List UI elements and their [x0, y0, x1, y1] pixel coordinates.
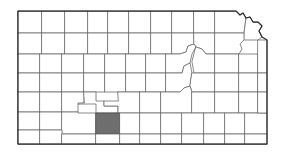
- county-shape[interactable]: [40, 54, 62, 73]
- county-shape[interactable]: [65, 11, 88, 33]
- kansas-county-map[interactable]: [0, 0, 286, 156]
- county-shape[interactable]: [96, 134, 120, 144]
- county-shape[interactable]: [62, 134, 96, 144]
- county-shape[interactable]: [245, 134, 267, 144]
- county-shape[interactable]: [204, 134, 225, 144]
- county-shape[interactable]: [172, 11, 194, 33]
- county-shape[interactable]: [225, 113, 245, 134]
- county-shape[interactable]: [65, 33, 88, 54]
- map-figure: [0, 0, 286, 156]
- county-shape[interactable]: [18, 33, 42, 54]
- county-shape[interactable]: [126, 54, 146, 73]
- county-shape[interactable]: [18, 112, 40, 130]
- county-shape[interactable]: [239, 54, 258, 73]
- county-shape[interactable]: [40, 130, 62, 144]
- county-shape[interactable]: [62, 112, 96, 134]
- county-shape[interactable]: [40, 112, 62, 130]
- county-shape[interactable]: [129, 11, 151, 33]
- county-shape[interactable]: [146, 54, 166, 73]
- county-shape[interactable]: [140, 113, 161, 134]
- county-shape[interactable]: [182, 113, 204, 134]
- county-shape[interactable]: [258, 40, 267, 73]
- county-shape[interactable]: [40, 92, 62, 112]
- county-shape[interactable]: [105, 54, 126, 73]
- counties-layer: [18, 11, 267, 144]
- county-shape[interactable]: [108, 11, 129, 33]
- county-shape[interactable]: [215, 54, 239, 73]
- county-shape[interactable]: [194, 11, 215, 33]
- county-shape[interactable]: [120, 113, 140, 134]
- county-shape[interactable]: [62, 73, 84, 92]
- highlighted-county[interactable]: [96, 113, 120, 134]
- county-shape[interactable]: [215, 92, 239, 113]
- county-shape[interactable]: [42, 33, 65, 54]
- county-shape[interactable]: [18, 130, 40, 144]
- county-shape[interactable]: [18, 73, 40, 92]
- county-shape[interactable]: [151, 33, 172, 54]
- county-shape[interactable]: [245, 113, 267, 134]
- county-shape[interactable]: [204, 113, 225, 134]
- county-shape[interactable]: [190, 73, 215, 92]
- county-shape[interactable]: [258, 92, 267, 113]
- county-shape[interactable]: [108, 33, 129, 54]
- county-shape[interactable]: [84, 73, 105, 92]
- county-shape[interactable]: [140, 134, 161, 144]
- county-shape[interactable]: [225, 134, 245, 144]
- county-shape[interactable]: [192, 92, 215, 113]
- county-shape[interactable]: [126, 73, 146, 92]
- county-shape[interactable]: [129, 33, 151, 54]
- county-shape[interactable]: [215, 73, 239, 92]
- county-shape[interactable]: [105, 73, 126, 92]
- county-shape[interactable]: [18, 92, 40, 112]
- county-shape[interactable]: [161, 134, 182, 144]
- county-shape[interactable]: [161, 113, 182, 134]
- county-shape[interactable]: [42, 11, 65, 33]
- county-shape[interactable]: [84, 54, 105, 73]
- county-shape[interactable]: [215, 33, 244, 54]
- county-shape[interactable]: [182, 134, 204, 144]
- county-shape[interactable]: [18, 54, 40, 73]
- county-shape[interactable]: [239, 73, 258, 92]
- county-shape[interactable]: [151, 11, 172, 33]
- county-shape[interactable]: [88, 11, 108, 33]
- county-shape[interactable]: [88, 33, 108, 54]
- county-shape[interactable]: [40, 73, 62, 92]
- county-shape[interactable]: [258, 73, 267, 92]
- county-shape[interactable]: [140, 92, 161, 113]
- county-shape[interactable]: [239, 92, 258, 113]
- county-shape[interactable]: [18, 11, 42, 33]
- county-shape[interactable]: [146, 73, 166, 92]
- county-shape[interactable]: [120, 134, 140, 144]
- county-shape[interactable]: [62, 54, 84, 73]
